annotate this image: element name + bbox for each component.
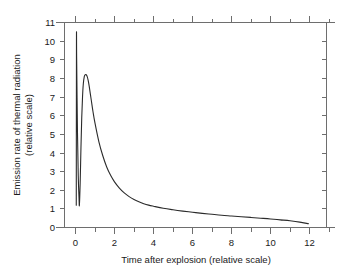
y-axis-ticks: 0 1 2 3 4 5 6 7 8 9 10 11 (44, 17, 64, 233)
x-axis-title: Time after explosion (relative scale) (121, 254, 271, 265)
x-tick-label-4: 4 (151, 237, 156, 248)
emission-rate-curve (76, 32, 308, 224)
thermal-radiation-chart: Emission rate of thermal radiation (rela… (0, 0, 347, 275)
x-axis-ticks: 0 2 4 6 8 10 12 (73, 228, 329, 249)
y-tick-label-7: 7 (50, 92, 55, 103)
x-tick-label-8: 8 (229, 237, 234, 248)
y-tick-label-6: 6 (50, 110, 55, 121)
x-tick-label-12: 12 (304, 237, 315, 248)
y-tick-label-3: 3 (50, 166, 55, 177)
x-tick-label-0: 0 (73, 237, 78, 248)
y-tick-label-2: 2 (50, 185, 55, 196)
y-tick-label-1: 1 (50, 203, 55, 214)
y-tick-label-11: 11 (45, 17, 55, 28)
y-tick-label-0: 0 (50, 222, 55, 233)
y-axis-title-line1: Emission rate of thermal radiation (11, 54, 22, 196)
x-tick-label-2: 2 (112, 237, 117, 248)
plot-frame (56, 22, 335, 228)
y-axis-title-line2: (relative scale) (23, 94, 34, 156)
y-tick-label-9: 9 (50, 54, 55, 65)
x-tick-label-6: 6 (190, 237, 195, 248)
y-tick-label-4: 4 (50, 148, 55, 159)
y-axis-right-ticks (322, 41, 327, 227)
x-axis-top-ticks (76, 16, 330, 23)
y-tick-label-10: 10 (44, 36, 55, 47)
y-tick-label-8: 8 (50, 73, 55, 84)
chart-canvas: Emission rate of thermal radiation (rela… (0, 0, 347, 275)
x-tick-label-10: 10 (265, 237, 276, 248)
y-tick-label-5: 5 (50, 129, 55, 140)
